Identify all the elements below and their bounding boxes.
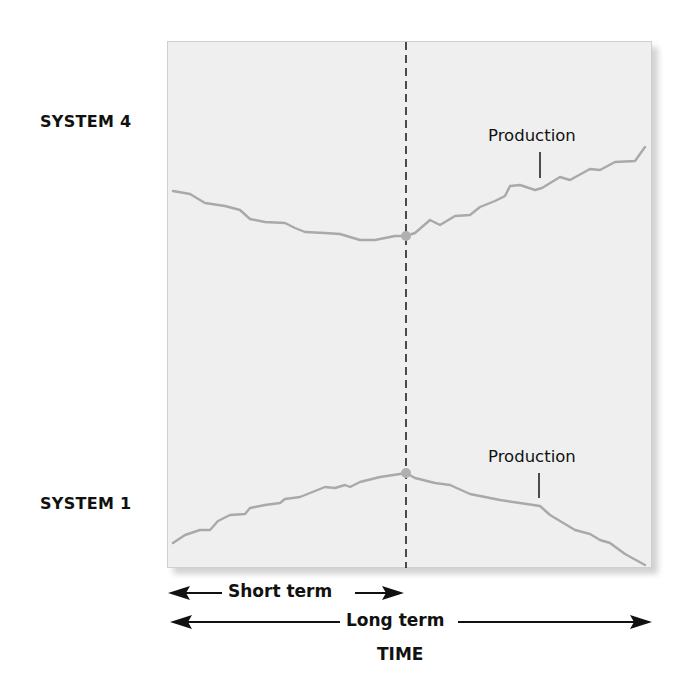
time-axis-label: TIME bbox=[373, 644, 427, 664]
system4-label: SYSTEM 4 bbox=[40, 112, 132, 131]
production-bottom-label: Production bbox=[488, 447, 576, 466]
short-term-label: Short term bbox=[224, 581, 336, 601]
long-term-label: Long term bbox=[342, 610, 448, 630]
system1-production-line bbox=[173, 473, 645, 565]
production-top-label: Production bbox=[488, 126, 576, 145]
system4-marker-dot bbox=[401, 231, 411, 241]
system1-marker-dot bbox=[401, 468, 411, 478]
system4-production-line bbox=[173, 147, 645, 240]
chart-overlay bbox=[0, 0, 693, 692]
system1-label: SYSTEM 1 bbox=[40, 494, 132, 513]
